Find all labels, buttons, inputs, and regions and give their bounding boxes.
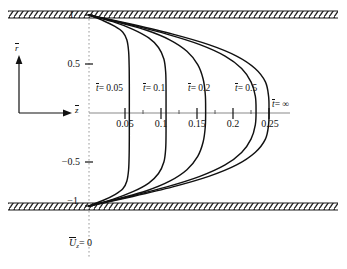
x-tick-label-0-05: 0.05 <box>116 119 134 129</box>
bottom-caption-equals: = 0 <box>79 237 92 248</box>
axis-label-r: r <box>15 44 19 53</box>
curve-label-t-0-5: t= 0.5 <box>235 84 257 94</box>
bottom-caption: Uz= 0 <box>69 238 92 250</box>
curve-t-0-2 <box>89 15 206 206</box>
velocity-profile-chart <box>0 0 347 269</box>
curve-label-t-0-1-eq: = 0.1 <box>146 83 166 93</box>
curve-t-0-05 <box>89 15 129 206</box>
bottom-wall <box>8 203 338 210</box>
curve-label-t-0-1: t= 0.1 <box>143 84 165 94</box>
x-tick-label-0-2: 0.2 <box>227 119 240 129</box>
figure-container: 1 0.5 −0.5 −1 0.05 0.1 0.15 0.2 0.25 r z… <box>0 0 347 269</box>
top-wall <box>8 11 338 18</box>
curve-label-t-0-1-var: t <box>143 84 146 94</box>
curve-label-t-infinity-var: t <box>272 100 275 110</box>
curve-label-t-infinity: t= ∞ <box>272 100 289 110</box>
curve-label-t-infinity-eq: = ∞ <box>275 99 290 109</box>
curve-label-t-0-2-eq: = 0.2 <box>191 83 211 93</box>
x-tick-label-0-15: 0.15 <box>188 119 206 129</box>
curve-label-t-0-05-eq: = 0.05 <box>99 83 123 93</box>
curve-t-0-5 <box>89 15 256 206</box>
y-tick-label-1: 1 <box>69 10 74 20</box>
coordinate-axes-glyph <box>16 55 72 116</box>
curve-label-t-0-05: t= 0.05 <box>96 84 123 94</box>
axis-label-r-text: r <box>15 44 19 53</box>
bottom-caption-u: U <box>69 238 76 248</box>
curve-label-t-0-2: t= 0.2 <box>188 84 210 94</box>
curve-label-t-0-5-var: t <box>235 84 238 94</box>
curve-label-t-0-2-var: t <box>188 84 191 94</box>
y-tick-label-neg-1: −1 <box>67 196 78 206</box>
x-tick-label-0-1: 0.1 <box>155 119 168 129</box>
y-tick-label-neg-0-5: −0.5 <box>62 157 80 167</box>
x-tick-label-0-25: 0.25 <box>261 119 279 129</box>
y-tick-label-0-5: 0.5 <box>68 59 81 69</box>
curve-label-t-0-05-var: t <box>96 84 99 94</box>
curve-label-t-0-5-eq: = 0.5 <box>238 83 258 93</box>
axis-label-z: z <box>75 106 79 115</box>
axis-label-z-text: z <box>75 106 79 115</box>
